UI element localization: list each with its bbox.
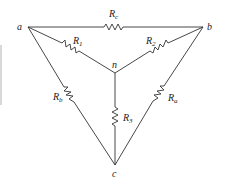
resistor-r3 (112, 73, 118, 165)
r1-label: R1 (72, 35, 83, 48)
rc-label: Rc (108, 8, 119, 21)
circuit-diagram: a b c n Rc R1 R2 R3 Rb Ra (0, 0, 225, 189)
resistor-r2 (115, 27, 203, 73)
node-a-label: a (17, 21, 22, 32)
node-n-label: n (112, 59, 117, 70)
rb-label: Rb (52, 91, 63, 104)
r3-label: R3 (122, 112, 133, 125)
resistor-rc (28, 24, 203, 30)
ra-label: Ra (167, 92, 178, 105)
resistor-r1 (28, 27, 115, 73)
node-b-label: b (207, 21, 212, 32)
r2-label: R2 (145, 35, 156, 48)
resistor-rb (28, 27, 115, 165)
node-c-label: c (112, 168, 117, 179)
